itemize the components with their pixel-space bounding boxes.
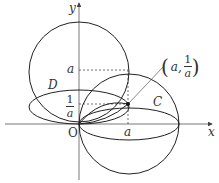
diagram-graphics [0, 0, 219, 183]
origin-label: O [68, 127, 78, 139]
curve-c-label: C [153, 96, 162, 108]
diagram: y x O a 1 a a D C ( a, 1 a ) [0, 0, 219, 183]
y-tick-a: a [67, 63, 74, 75]
y-axis-label: y [69, 2, 76, 14]
x-axis-label: x [208, 126, 215, 138]
point-label: ( a, 1 a ) [161, 54, 200, 79]
curve-d-label: D [48, 79, 58, 91]
x-tick-a: a [124, 126, 131, 138]
y-tick-inverse-a: 1 a [66, 94, 74, 119]
